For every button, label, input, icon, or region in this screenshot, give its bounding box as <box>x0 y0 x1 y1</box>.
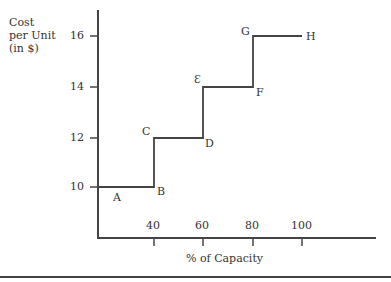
point-label-g: G <box>241 25 250 38</box>
x-tick-80: 80 <box>245 219 259 232</box>
step-cost-line <box>98 36 302 187</box>
point-label-f: F <box>256 86 264 99</box>
y-tick-14: 14 <box>70 80 84 93</box>
point-label-d: D <box>205 137 214 150</box>
x-tick-40: 40 <box>146 219 160 232</box>
y-axis-label: Cost per Unit (in $) <box>9 16 69 55</box>
y-tick-16: 16 <box>70 29 84 42</box>
y-tick-12: 12 <box>70 131 84 144</box>
point-label-h: H <box>306 30 316 43</box>
bottom-divider <box>0 276 391 278</box>
point-label-e: Ɛ <box>194 73 201 86</box>
x-tick-100: 100 <box>291 219 312 232</box>
x-axis-label: % of Capacity <box>186 252 263 265</box>
y-tick-10: 10 <box>70 180 84 193</box>
x-tick-60: 60 <box>195 219 209 232</box>
point-label-b: B <box>157 185 165 198</box>
point-label-c: C <box>142 125 150 138</box>
point-label-a: A <box>113 191 121 204</box>
